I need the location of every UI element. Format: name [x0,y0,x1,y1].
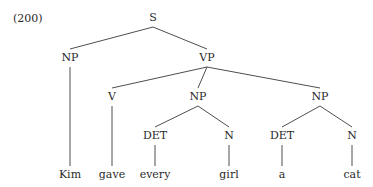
tree-edge-np2-det1 [155,106,198,127]
tree-edge-vp-v [112,67,207,88]
tree-node-np: NP [61,51,79,64]
tree-node-np: NP [311,90,329,103]
tree-edge-np2-n1 [198,106,229,127]
tree-leaf-a: a [279,168,286,181]
tree-edge-vp-np2 [198,67,207,88]
tree-edge-s-vp [153,27,207,49]
tree-node-vp: VP [198,51,215,64]
tree-leaf-girl: girl [219,168,239,181]
tree-leaf-cat: cat [343,168,361,181]
tree-edge-np3-n2 [320,106,352,127]
tree-node-det: DET [143,129,168,142]
syntax-tree: (200) SNPVPVNPNPDETNDETNKimgaveeverygirl… [0,0,373,187]
tree-edge-vp-np3 [207,67,320,88]
tree-node-np: NP [189,90,207,103]
tree-node-n: N [347,129,357,142]
tree-node-s: S [149,11,157,24]
example-number: (200) [13,12,43,25]
tree-node-v: V [107,90,117,103]
tree-leaf-gave: gave [99,168,125,181]
tree-leaf-every: every [140,168,171,181]
tree-nodes: SNPVPVNPNPDETNDETNKimgaveeverygirlacat [59,11,361,181]
tree-edge-s-np1 [70,27,153,49]
tree-leaf-kim: Kim [59,168,82,181]
tree-node-det: DET [270,129,295,142]
tree-node-n: N [224,129,234,142]
tree-edge-np3-det2 [282,106,320,127]
